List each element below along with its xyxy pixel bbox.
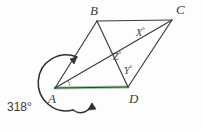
vertex-label-A: A — [48, 92, 56, 105]
angle-label-Z-degree: ° — [119, 51, 122, 59]
segment-side-CD — [128, 20, 172, 87]
reflex-angle-label: 318° — [7, 101, 32, 113]
vertex-label-D: D — [129, 92, 138, 105]
angle-label-Z: Z° — [113, 52, 121, 62]
angle-label-X-degree: ° — [142, 27, 145, 35]
geometry-figure: B C A D X° Z° Y° 318° — [0, 0, 203, 133]
arc-arrowhead-lower — [88, 103, 96, 110]
vertex-label-C: C — [176, 3, 185, 16]
angle-label-Y: Y° — [124, 66, 132, 76]
angle-tick-at-A — [68, 81, 70, 86]
vertex-label-B: B — [90, 4, 98, 17]
segment-side-BC — [97, 20, 172, 21]
angle-label-Y-degree: ° — [130, 65, 133, 73]
angle-label-X: X° — [136, 28, 145, 38]
